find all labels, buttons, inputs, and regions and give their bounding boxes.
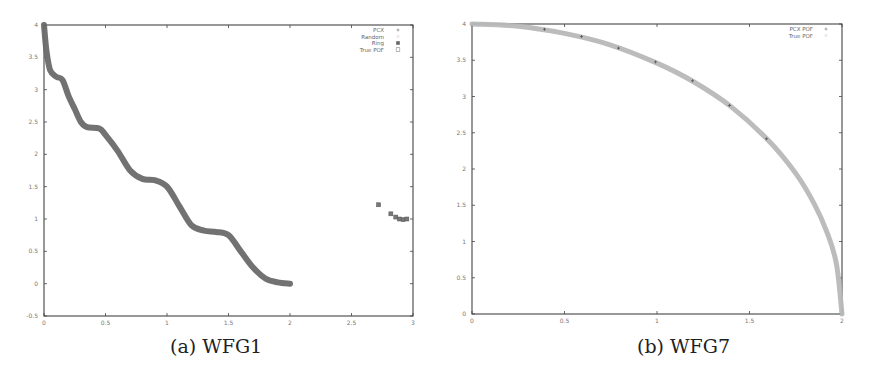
ring-marker: [377, 203, 381, 207]
x-tick-label: 0: [42, 319, 46, 326]
y-tick-label: 2.5: [28, 118, 38, 125]
chart-panel-wfg1: 00.511.522.53-0.500.511.522.533.54PCXRan…: [0, 0, 440, 388]
x-tick-label: 2: [288, 319, 292, 326]
y-tick-label: 4: [462, 20, 466, 27]
caption-wfg7: (b) WFG7: [637, 335, 730, 357]
x-tick-label: 0.5: [101, 319, 111, 326]
x-tick-label: 3: [411, 319, 415, 326]
legend-label: PCX: [373, 27, 384, 33]
legend-marker-icon: [825, 28, 828, 31]
legend-label: Random: [361, 34, 384, 40]
y-tick-label: 2.5: [456, 129, 466, 136]
ring-marker: [389, 212, 393, 216]
x-tick-label: 2: [840, 317, 844, 324]
legend-marker-icon: [397, 29, 400, 32]
y-tick-label: 3: [34, 86, 38, 93]
ring-marker: [397, 217, 401, 221]
chart-wfg1: 00.511.522.53-0.500.511.522.533.54PCXRan…: [0, 0, 440, 388]
plot-frame: [44, 25, 413, 316]
legend-label: True POF: [359, 47, 384, 53]
y-tick-label: 4: [34, 21, 38, 28]
y-tick-label: 3.5: [28, 53, 38, 60]
y-tick-label: 2: [34, 150, 38, 157]
ring-marker: [394, 215, 398, 219]
x-tick-label: 2.5: [347, 319, 357, 326]
x-tick-label: 0.5: [560, 317, 570, 324]
chart-panel-wfg7: 00.511.5200.511.522.533.54PCX POFTrue PO…: [440, 0, 869, 388]
y-tick-label: 0: [34, 280, 38, 287]
x-tick-label: 0: [470, 317, 474, 324]
legend-label: True POF: [788, 33, 813, 39]
y-tick-label: 3: [462, 93, 466, 100]
x-tick-label: 1: [165, 319, 169, 326]
legend-marker-icon: [396, 41, 400, 45]
y-tick-label: 0.5: [456, 274, 466, 281]
y-tick-label: 1.5: [456, 201, 466, 208]
y-tick-label: 1.5: [28, 183, 38, 190]
legend-marker-icon: [825, 34, 827, 36]
y-tick-label: 2: [462, 165, 466, 172]
y-tick-label: 3.5: [456, 56, 466, 63]
x-tick-label: 1: [655, 317, 659, 324]
caption-wfg1: (a) WFG1: [170, 335, 262, 357]
legend: PCX POFTrue POF: [788, 26, 828, 39]
ring-marker: [405, 217, 409, 221]
legend: PCXRandomRingTrue POF: [359, 27, 400, 53]
y-tick-label: 1: [34, 215, 38, 222]
x-tick-label: 1.5: [745, 317, 755, 324]
true-pof-curve: [44, 25, 290, 284]
y-tick-label: 1: [462, 238, 466, 245]
x-tick-label: 1.5: [224, 319, 234, 326]
plot-frame: [472, 24, 842, 314]
legend-marker-icon: [397, 35, 399, 37]
y-tick-label: 0.5: [28, 247, 38, 254]
y-tick-label: 0: [462, 310, 466, 317]
chart-wfg7: 00.511.5200.511.522.533.54PCX POFTrue PO…: [440, 0, 869, 388]
true-pof-curve: [472, 24, 842, 314]
ring-marker: [401, 218, 405, 222]
legend-label: PCX POF: [790, 26, 813, 32]
y-tick-label: -0.5: [26, 312, 38, 319]
legend-marker-icon: [396, 48, 400, 52]
